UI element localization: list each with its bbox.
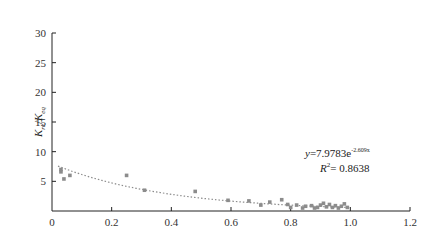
data-point bbox=[259, 203, 263, 207]
scatter-chart: 51015202530 00.20.40.60.81.01.2 Kre/Keq … bbox=[0, 0, 439, 227]
data-point bbox=[247, 199, 251, 203]
data-point bbox=[304, 204, 308, 208]
data-point bbox=[289, 206, 293, 210]
x-tick-label: 0.8 bbox=[284, 216, 298, 227]
data-point bbox=[268, 200, 272, 204]
data-point bbox=[295, 203, 299, 207]
trendline bbox=[58, 166, 350, 207]
x-axis: 00.20.40.60.81.01.2 bbox=[49, 207, 417, 227]
x-tick-label: 0.6 bbox=[224, 216, 238, 227]
data-point bbox=[59, 170, 63, 174]
data-point bbox=[62, 177, 66, 181]
y-tick-label: 30 bbox=[35, 27, 47, 39]
x-tick-label: 0 bbox=[49, 216, 55, 227]
x-tick-label: 0.2 bbox=[105, 216, 119, 227]
y-tick-label: 20 bbox=[35, 86, 47, 98]
x-tick-label: 1.2 bbox=[403, 216, 417, 227]
data-point bbox=[343, 202, 347, 206]
data-point bbox=[346, 206, 350, 210]
trendline-equation: y=7.9783e-2.609x bbox=[304, 147, 370, 159]
y-tick-label: 5 bbox=[41, 175, 47, 187]
r-squared-label: R2= 0.8638 bbox=[319, 161, 370, 174]
data-point bbox=[125, 174, 129, 178]
x-tick-label: 0.4 bbox=[164, 216, 178, 227]
data-point bbox=[143, 188, 147, 192]
data-point bbox=[193, 190, 197, 194]
data-point bbox=[68, 174, 72, 178]
y-tick-label: 25 bbox=[35, 57, 47, 69]
x-tick-label: 1.0 bbox=[343, 216, 357, 227]
data-point bbox=[322, 201, 326, 205]
data-point bbox=[226, 199, 230, 203]
data-points bbox=[59, 168, 349, 210]
y-tick-label: 10 bbox=[35, 146, 47, 158]
data-point bbox=[280, 198, 284, 202]
